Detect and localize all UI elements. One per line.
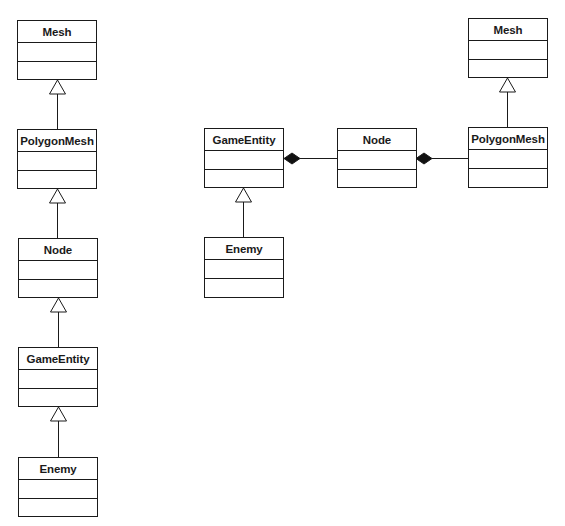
attributes-compartment (19, 480, 97, 499)
generalization-arrow-icon (50, 189, 66, 203)
operations-compartment (19, 280, 97, 297)
class-name: PolygonMesh (18, 130, 96, 152)
class-name: Enemy (205, 238, 283, 260)
class-name: Node (338, 129, 416, 151)
generalization-arrow-icon (50, 80, 66, 94)
class-box-node[interactable]: Node (18, 238, 98, 298)
class-box-gameentity[interactable]: GameEntity (204, 128, 284, 188)
class-box-enemy[interactable]: Enemy (204, 237, 284, 298)
attributes-compartment (18, 152, 96, 171)
attributes-compartment (338, 151, 416, 170)
class-name: Mesh (18, 21, 96, 43)
operations-compartment (469, 60, 547, 77)
attributes-compartment (18, 43, 96, 62)
class-box-mesh[interactable]: Mesh (17, 20, 97, 80)
class-box-gameentity[interactable]: GameEntity (18, 347, 98, 407)
class-box-node[interactable]: Node (337, 128, 417, 188)
attributes-compartment (205, 151, 283, 170)
generalization-arrow-icon (236, 188, 252, 202)
operations-compartment (19, 389, 97, 406)
class-name: Node (19, 239, 97, 261)
class-name: GameEntity (205, 129, 283, 151)
class-box-polygonmesh[interactable]: PolygonMesh (468, 127, 548, 188)
generalization-arrow-icon (51, 298, 67, 312)
generalization-arrow-icon (500, 78, 516, 92)
class-name: GameEntity (19, 348, 97, 370)
operations-compartment (18, 62, 96, 79)
operations-compartment (205, 279, 283, 297)
composition-diamond-icon (416, 153, 432, 164)
attributes-compartment (469, 150, 547, 169)
operations-compartment (338, 170, 416, 187)
composition-diamond-icon (284, 153, 300, 164)
operations-compartment (469, 169, 547, 187)
operations-compartment (19, 499, 97, 516)
generalization-arrow-icon (51, 407, 67, 421)
class-name: Enemy (19, 458, 97, 480)
attributes-compartment (19, 370, 97, 389)
attributes-compartment (469, 41, 547, 60)
class-box-enemy[interactable]: Enemy (18, 457, 98, 517)
class-name: Mesh (469, 19, 547, 41)
operations-compartment (205, 170, 283, 187)
class-box-mesh[interactable]: Mesh (468, 18, 548, 78)
class-box-polygonmesh[interactable]: PolygonMesh (17, 129, 97, 189)
uml-canvas: Mesh PolygonMesh Node GameEntity Enemy M… (0, 0, 565, 526)
operations-compartment (18, 171, 96, 188)
attributes-compartment (205, 260, 283, 279)
attributes-compartment (19, 261, 97, 280)
class-name: PolygonMesh (469, 128, 547, 150)
